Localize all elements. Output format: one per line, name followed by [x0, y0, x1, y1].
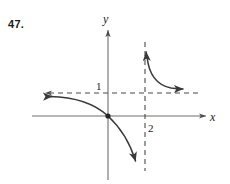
graph-canvas: x y 1 2 [0, 0, 230, 184]
y-axis-label: y [102, 12, 109, 26]
tick-label-one: 1 [96, 80, 102, 92]
tick-label-two: 2 [148, 122, 154, 134]
figure-container: 47. x y [0, 0, 230, 184]
x-axis-label: x [209, 110, 216, 124]
origin-point-marker [105, 113, 110, 118]
curve-right-branch [147, 56, 183, 89]
curve-left-branch [50, 97, 136, 162]
